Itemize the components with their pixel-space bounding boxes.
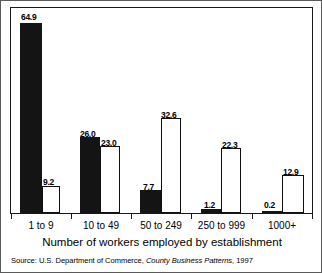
bar-value-establishments-10-to-49: 26.0: [80, 130, 95, 139]
bar-establishments-10-to-49: [80, 137, 100, 213]
bar-value-employment-250-to-999: 22.3: [222, 141, 237, 150]
plot-area: 64.9 9.2 26.0 23.0 7.7 32.6 1.2 22.3 0.2…: [11, 8, 312, 213]
bar-establishments-1000-plus: [262, 211, 282, 213]
x-axis-label-10-to-49: 10 to 49: [71, 220, 131, 232]
x-axis-label-50-to-249: 50 to 249: [131, 220, 191, 232]
source-suffix: , 1997: [232, 256, 253, 265]
x-axis-label-250-to-999: 250 to 999: [191, 220, 252, 232]
source-publication: County Business Patterns: [146, 256, 232, 265]
chart-figure: Establishments Employment 64.9 9.2 26.0 …: [0, 0, 322, 273]
bar-value-establishments-1-to-9: 64.9: [21, 13, 36, 22]
bar-employment-250-to-999: [221, 148, 241, 213]
axis-tick: [131, 214, 132, 219]
x-axis-title: Number of workers employed by establishm…: [1, 235, 322, 249]
bar-value-employment-1000-plus: 12.9: [283, 168, 298, 177]
bar-employment-1-to-9: [42, 186, 60, 213]
bar-value-establishments-1000-plus: 0.2: [264, 201, 275, 210]
source-prefix: Source: U.S. Department of Commerce,: [11, 256, 146, 265]
bar-value-establishments-250-to-999: 1.2: [204, 201, 215, 210]
axis-tick: [191, 214, 192, 219]
bar-employment-1000-plus: [282, 175, 304, 213]
bar-value-employment-10-to-49: 23.0: [101, 139, 116, 148]
x-axis-label-1000-plus: 1000+: [252, 220, 312, 232]
bar-employment-10-to-49: [100, 146, 120, 213]
bar-employment-50-to-249: [161, 118, 181, 213]
x-axis-label-1-to-9: 1 to 9: [11, 220, 71, 232]
axis-tick: [312, 214, 313, 219]
bar-value-employment-50-to-249: 32.6: [161, 111, 176, 120]
bar-value-establishments-50-to-249: 7.7: [143, 183, 154, 192]
bar-value-employment-1-to-9: 9.2: [43, 178, 54, 187]
source-note: Source: U.S. Department of Commerce, Cou…: [11, 256, 253, 266]
bar-establishments-1-to-9: [20, 23, 42, 213]
axis-tick: [71, 214, 72, 219]
bar-establishments-50-to-249: [140, 190, 161, 213]
axis-tick: [252, 214, 253, 219]
plot-frame: 64.9 9.2 26.0 23.0 7.7 32.6 1.2 22.3 0.2…: [10, 7, 313, 214]
axis-tick: [11, 214, 12, 219]
